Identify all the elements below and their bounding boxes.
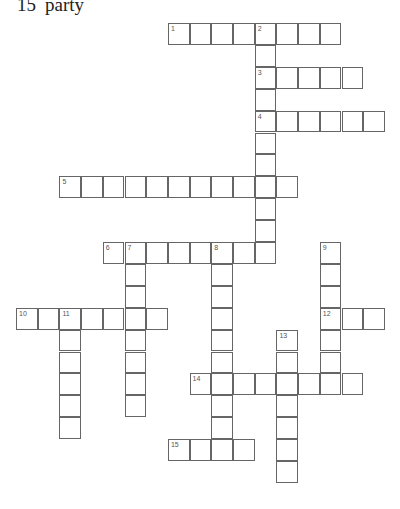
crossword-cell[interactable]	[146, 308, 168, 330]
crossword-cell[interactable]	[276, 23, 298, 45]
crossword-cell[interactable]	[125, 373, 147, 395]
crossword-cell[interactable]	[59, 352, 81, 374]
cell-number: 3	[258, 68, 262, 77]
crossword-cell[interactable]	[211, 395, 233, 417]
crossword-cell[interactable]	[255, 198, 277, 220]
crossword-cell[interactable]	[211, 264, 233, 286]
crossword-cell[interactable]	[363, 308, 385, 330]
crossword-cell[interactable]	[276, 373, 298, 395]
cell-number: 13	[279, 331, 287, 340]
crossword-cell[interactable]	[211, 176, 233, 198]
crossword-cell[interactable]	[103, 176, 125, 198]
crossword-cell[interactable]	[146, 176, 168, 198]
crossword-cell[interactable]	[276, 461, 298, 483]
crossword-cell[interactable]	[298, 111, 320, 133]
crossword-cell[interactable]	[298, 373, 320, 395]
crossword-cell[interactable]: 3	[255, 67, 277, 89]
crossword-cell[interactable]	[320, 352, 342, 374]
crossword-cell[interactable]	[320, 111, 342, 133]
crossword-cell[interactable]	[190, 439, 212, 461]
crossword-cell[interactable]	[168, 242, 190, 264]
crossword-cell[interactable]	[146, 242, 168, 264]
crossword-cell[interactable]	[59, 330, 81, 352]
crossword-cell[interactable]	[342, 308, 364, 330]
crossword-cell[interactable]	[233, 176, 255, 198]
crossword-cell[interactable]	[211, 330, 233, 352]
crossword-cell[interactable]: 14	[190, 373, 212, 395]
crossword-cell[interactable]	[125, 264, 147, 286]
crossword-cell[interactable]	[255, 45, 277, 67]
crossword-cell[interactable]	[125, 395, 147, 417]
crossword-cell[interactable]	[59, 395, 81, 417]
crossword-cell[interactable]	[190, 242, 212, 264]
crossword-cell[interactable]	[320, 67, 342, 89]
crossword-cell[interactable]	[59, 417, 81, 439]
crossword-cell[interactable]	[342, 111, 364, 133]
crossword-cell[interactable]	[233, 23, 255, 45]
crossword-cell[interactable]	[255, 373, 277, 395]
crossword-cell[interactable]: 13	[276, 330, 298, 352]
crossword-cell[interactable]	[320, 373, 342, 395]
crossword-cell[interactable]	[320, 264, 342, 286]
crossword-cell[interactable]	[342, 373, 364, 395]
crossword-cell[interactable]	[342, 67, 364, 89]
crossword-cell[interactable]	[211, 308, 233, 330]
crossword-cell[interactable]	[190, 176, 212, 198]
crossword-cell[interactable]: 2	[255, 23, 277, 45]
crossword-cell[interactable]	[168, 176, 190, 198]
crossword-cell[interactable]	[125, 352, 147, 374]
crossword-cell[interactable]	[211, 352, 233, 374]
crossword-cell[interactable]: 1	[168, 23, 190, 45]
crossword-cell[interactable]	[255, 220, 277, 242]
crossword-cell[interactable]	[59, 373, 81, 395]
crossword-cell[interactable]	[298, 23, 320, 45]
crossword-cell[interactable]	[255, 154, 277, 176]
crossword-cell[interactable]: 7	[125, 242, 147, 264]
crossword-cell[interactable]: 8	[211, 242, 233, 264]
crossword-cell[interactable]	[320, 286, 342, 308]
crossword-cell[interactable]: 9	[320, 242, 342, 264]
crossword-cell[interactable]	[38, 308, 60, 330]
crossword-cell[interactable]	[211, 286, 233, 308]
crossword-cell[interactable]	[320, 330, 342, 352]
crossword-cell[interactable]: 5	[59, 176, 81, 198]
crossword-cell[interactable]	[211, 373, 233, 395]
cell-number: 1	[171, 24, 175, 33]
crossword-cell[interactable]: 15	[168, 439, 190, 461]
crossword-cell[interactable]: 6	[103, 242, 125, 264]
crossword-cell[interactable]	[320, 23, 342, 45]
crossword-cell[interactable]	[255, 133, 277, 155]
crossword-cell[interactable]	[276, 395, 298, 417]
crossword-cell[interactable]	[211, 417, 233, 439]
crossword-grid: 123456789121011131415	[0, 0, 400, 509]
crossword-cell[interactable]	[190, 23, 212, 45]
crossword-cell[interactable]	[276, 176, 298, 198]
crossword-cell[interactable]	[233, 373, 255, 395]
crossword-cell[interactable]	[276, 67, 298, 89]
crossword-cell[interactable]	[103, 308, 125, 330]
crossword-cell[interactable]: 11	[59, 308, 81, 330]
crossword-cell[interactable]	[125, 176, 147, 198]
crossword-cell[interactable]	[298, 67, 320, 89]
crossword-cell[interactable]	[255, 176, 277, 198]
crossword-cell[interactable]	[276, 439, 298, 461]
crossword-cell[interactable]	[81, 308, 103, 330]
crossword-cell[interactable]: 4	[255, 111, 277, 133]
crossword-cell[interactable]	[276, 111, 298, 133]
crossword-cell[interactable]	[363, 111, 385, 133]
crossword-cell[interactable]	[255, 89, 277, 111]
crossword-cell[interactable]	[276, 417, 298, 439]
cell-number: 14	[193, 374, 201, 383]
crossword-cell[interactable]	[211, 439, 233, 461]
crossword-cell[interactable]: 10	[16, 308, 38, 330]
crossword-cell[interactable]	[233, 242, 255, 264]
crossword-cell[interactable]: 12	[320, 308, 342, 330]
crossword-cell[interactable]	[211, 23, 233, 45]
crossword-cell[interactable]	[81, 176, 103, 198]
crossword-cell[interactable]	[125, 308, 147, 330]
crossword-cell[interactable]	[276, 352, 298, 374]
crossword-cell[interactable]	[125, 330, 147, 352]
crossword-cell[interactable]	[125, 286, 147, 308]
crossword-cell[interactable]	[233, 439, 255, 461]
crossword-cell[interactable]	[255, 242, 277, 264]
